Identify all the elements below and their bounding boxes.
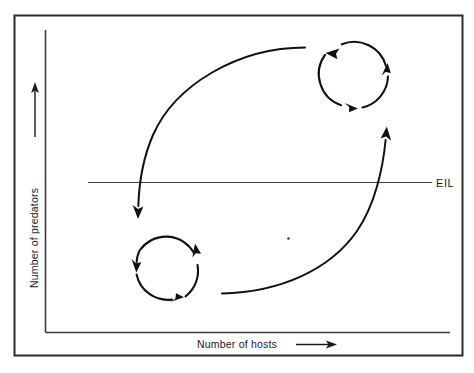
page-background (0, 0, 474, 373)
paper-speck-artifact (287, 237, 290, 240)
x-axis-label: Number of hosts (197, 338, 277, 350)
y-axis-label: Number of predators (28, 188, 40, 288)
figure-container: Number of predators Number of hosts EIL (0, 0, 474, 373)
eil-label: EIL (436, 177, 454, 189)
diagram-canvas: Number of predators Number of hosts EIL (0, 0, 474, 373)
